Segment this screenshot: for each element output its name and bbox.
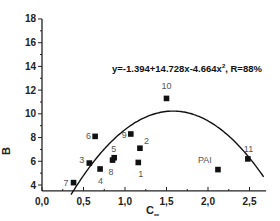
point-label: 8 — [109, 167, 114, 177]
point-label: 3 — [79, 155, 84, 165]
point-label: 11 — [244, 144, 253, 154]
point-label: 1 — [138, 169, 143, 179]
data-point — [110, 157, 116, 163]
data-point — [164, 96, 170, 102]
data-point — [245, 156, 251, 162]
data-point — [97, 166, 103, 172]
point-label: 7 — [64, 178, 69, 188]
y-tick-label: 6 — [30, 156, 36, 167]
x-axis-title: C∞ — [146, 204, 159, 218]
point-label: 4 — [98, 176, 103, 186]
x-tick-label: 2,0 — [201, 196, 215, 207]
x-tick-label: 1,5 — [160, 196, 174, 207]
y-axis-title: B — [0, 147, 12, 155]
data-point — [87, 160, 93, 166]
y-tick-label: 16 — [25, 37, 37, 48]
data-point — [135, 160, 141, 166]
point-label: 9 — [122, 130, 127, 140]
data-points: 1234567891011PAI — [64, 81, 254, 187]
data-point — [128, 131, 134, 137]
y-tick-label: 14 — [25, 61, 37, 72]
x-tick-label: 1,0 — [118, 196, 132, 207]
x-tick-label: 2,5 — [243, 196, 257, 207]
x-tick-label: 0,0 — [35, 196, 49, 207]
y-tick-label: 8 — [30, 132, 36, 143]
point-label: 6 — [86, 131, 91, 141]
x-tick-label: 0,5 — [77, 196, 91, 207]
point-label: 5 — [111, 144, 116, 154]
data-point — [137, 145, 143, 151]
fit-equation: y=-1.394+14.728x-4.664x2, R=88% — [112, 63, 262, 74]
point-label: PAI — [198, 155, 212, 165]
data-point — [92, 134, 98, 140]
y-tick-label: 10 — [25, 108, 37, 119]
y-tick-label: 18 — [25, 13, 37, 24]
axes: 0,00,51,01,52,02,54681012141618 — [25, 13, 266, 206]
point-label: 2 — [144, 136, 149, 146]
scatter-chart: 0,00,51,01,52,02,54681012141618 12345678… — [0, 0, 280, 221]
data-point — [71, 180, 77, 186]
data-point — [215, 167, 221, 173]
y-tick-label: 12 — [25, 85, 37, 96]
point-label: 10 — [162, 81, 172, 91]
y-tick-label: 4 — [30, 180, 36, 191]
